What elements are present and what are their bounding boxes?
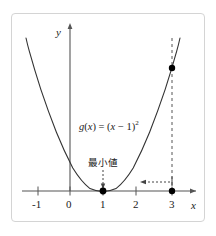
formula-equals: = ( bbox=[96, 121, 111, 132]
y-axis-name-label: y bbox=[56, 27, 61, 38]
x-tick-label-2: 2 bbox=[133, 199, 139, 210]
x-axis-name-label: x bbox=[191, 200, 196, 211]
formula-exponent: 2 bbox=[135, 119, 139, 127]
minimum-value-label: 最小値 bbox=[88, 158, 118, 168]
minimum-arrow bbox=[101, 170, 105, 189]
x-tick-label--1: -1 bbox=[32, 199, 41, 210]
formula-minus-one: − 1) bbox=[115, 121, 135, 132]
interval-arrow bbox=[140, 177, 172, 187]
point-endpoint-x3 bbox=[169, 65, 175, 71]
point-vertex-minimum bbox=[100, 188, 107, 195]
function-formula-label: g(x) = (x − 1)2 bbox=[79, 120, 139, 132]
parabola-curve bbox=[26, 38, 180, 192]
x-tick-label-3: 3 bbox=[169, 199, 175, 210]
point-x-axis-marker-x3 bbox=[169, 188, 175, 194]
x-tick-label-0: 0 bbox=[66, 199, 72, 210]
figure-screenshot: -1 0 1 2 3 x y g(x) = (x − 1)2 最小値 bbox=[0, 0, 216, 236]
x-tick-label-1: 1 bbox=[100, 199, 106, 210]
